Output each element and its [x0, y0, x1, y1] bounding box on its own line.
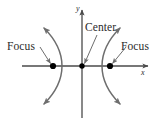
right-branch-lower [102, 66, 120, 104]
left-branch-upper [44, 28, 62, 66]
y-axis-label: y [76, 5, 80, 13]
focus-left-label: Focus [7, 41, 35, 53]
focus-right-label: Focus [121, 41, 149, 53]
focus-right-point [107, 63, 113, 69]
right-branch-upper [102, 28, 120, 66]
focus-left-leader [40, 47, 51, 64]
x-axis-label: x [141, 69, 145, 77]
left-branch-lower [44, 66, 62, 104]
center-point [79, 63, 84, 68]
figure-canvas [0, 0, 166, 122]
center-label: Center [85, 22, 116, 34]
center-leader [85, 35, 98, 64]
hyperbola-figure: Focus Focus Center y x [0, 0, 166, 122]
focus-left-point [50, 63, 56, 69]
